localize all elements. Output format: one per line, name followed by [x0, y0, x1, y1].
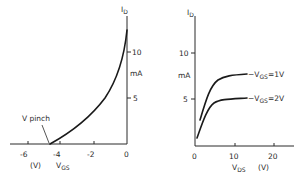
y-tick-label: 10: [132, 48, 142, 57]
y-unit-label: mA: [178, 71, 191, 80]
pinch-annotation: V pinch: [22, 114, 50, 123]
x-tick-label: -6: [20, 150, 28, 159]
x-unit-label: (V): [30, 161, 41, 170]
x-tick-label: -4: [53, 150, 61, 159]
x-axis-label: VGS: [56, 161, 70, 171]
transfer-characteristic-chart: -6 -4 -2 0 (V) VGS 10 5 mA ID V pinch: [10, 5, 143, 171]
curve-label-vgs-1v: −VGS=1V: [248, 70, 285, 80]
pinch-leader-line: [42, 125, 49, 143]
y-axis-label: ID: [187, 8, 194, 18]
transfer-curve: [50, 30, 127, 144]
y-axis-label: ID: [121, 5, 128, 15]
x-tick-label: 20: [268, 152, 278, 161]
x-tick-label: 0: [124, 150, 129, 159]
output-characteristics-chart: 0 10 20 VDS (V) 10 5 mA ID −VGS=1V −VGS=…: [178, 8, 294, 173]
y-tick-label: 10: [179, 49, 189, 58]
x-tick-label: 0: [192, 152, 197, 161]
curve-label-vgs-2v: −VGS=2V: [248, 94, 285, 104]
x-tick-label: -2: [87, 150, 95, 159]
x-axis-label: VDS: [232, 163, 246, 173]
y-tick-label: 5: [133, 94, 138, 103]
y-tick-label: 5: [183, 95, 188, 104]
jfet-characteristics-figure: -6 -4 -2 0 (V) VGS 10 5 mA ID V pinch 0 …: [0, 0, 300, 177]
y-unit-label: mA: [130, 69, 143, 78]
x-tick-label: 10: [229, 152, 239, 161]
x-unit-label: (V): [258, 163, 269, 172]
